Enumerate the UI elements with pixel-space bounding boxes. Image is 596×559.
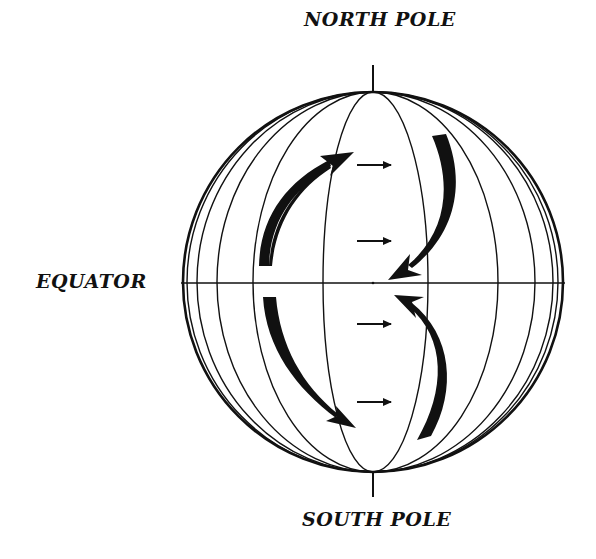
- center-dot: [372, 282, 375, 285]
- globe-diagram: [0, 0, 596, 559]
- curved-arrow-southeast-icon: [409, 303, 447, 440]
- curved-arrow-northeast-icon: [408, 134, 456, 268]
- curved-arrow-northwest-icon: [259, 160, 331, 266]
- curved-arrows: [259, 134, 456, 440]
